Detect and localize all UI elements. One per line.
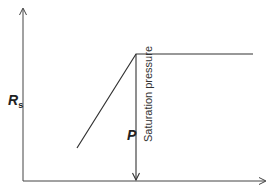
rs-curve — [77, 54, 253, 148]
saturation-pressure-label: Saturation pressure — [142, 46, 154, 142]
diagram-canvas — [0, 0, 274, 193]
saturation-pressure-arrow — [133, 54, 140, 180]
point-label-p: P — [127, 127, 136, 143]
y-axis-label: Rs — [8, 92, 23, 110]
x-axis — [23, 178, 266, 185]
